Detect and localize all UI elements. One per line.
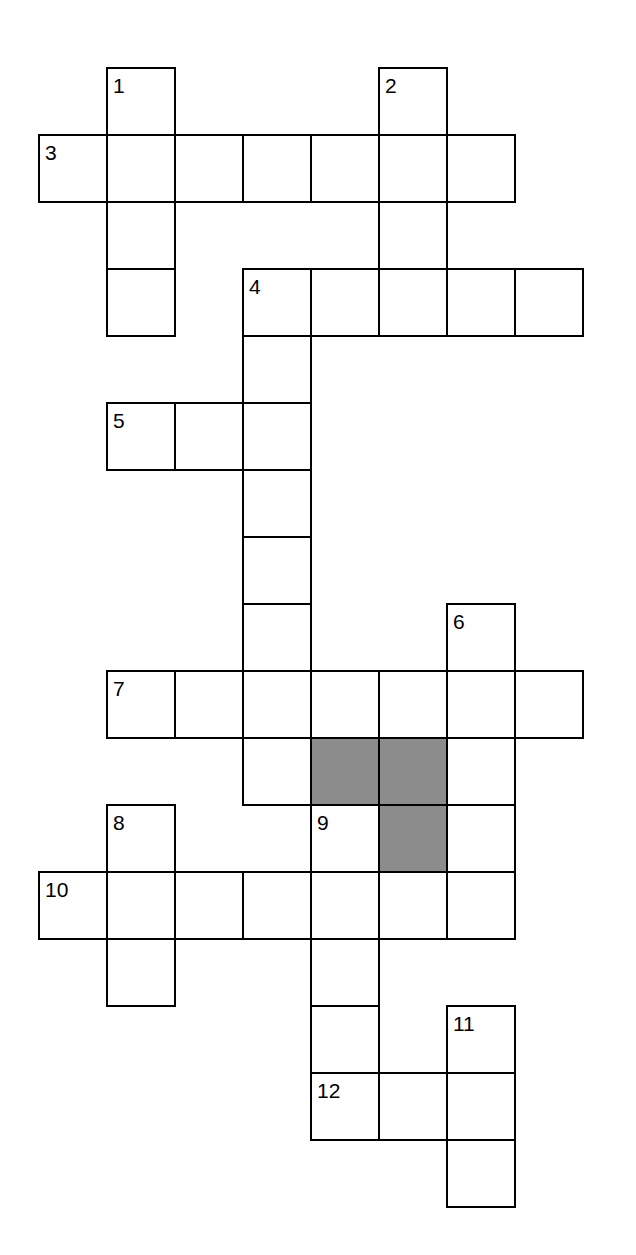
crossword-cell[interactable] (174, 871, 244, 940)
crossword-cell[interactable] (106, 871, 176, 940)
crossword-cell[interactable] (242, 871, 312, 940)
crossword-cell[interactable] (174, 134, 244, 203)
crossword-cell[interactable] (310, 871, 380, 940)
crossword-cell[interactable] (242, 134, 312, 203)
crossword-cell[interactable] (378, 871, 448, 940)
crossword-cell[interactable] (242, 469, 312, 538)
crossword-cell (310, 737, 380, 806)
crossword-cell (378, 804, 448, 873)
clue-number-1: 1 (113, 75, 125, 96)
crossword-cell[interactable] (446, 1139, 516, 1208)
clue-number-11: 11 (453, 1013, 475, 1034)
clue-number-7: 7 (113, 678, 125, 699)
crossword-cell (378, 737, 448, 806)
crossword-cell[interactable] (310, 268, 380, 337)
crossword-cell[interactable] (446, 871, 516, 940)
crossword-cell[interactable] (378, 201, 448, 270)
clue-number-9: 9 (317, 812, 329, 833)
crossword-cell[interactable] (242, 670, 312, 739)
crossword-cell[interactable] (242, 335, 312, 404)
crossword-page: 123456789101112 (0, 0, 636, 1255)
clue-number-4: 4 (249, 276, 261, 297)
clue-number-5: 5 (113, 410, 125, 431)
crossword-cell[interactable] (514, 670, 584, 739)
clue-number-10: 10 (45, 879, 68, 900)
crossword-cell[interactable] (446, 268, 516, 337)
crossword-cell[interactable] (106, 268, 176, 337)
crossword-cell[interactable] (514, 268, 584, 337)
crossword-cell[interactable] (310, 134, 380, 203)
crossword-cell[interactable] (242, 536, 312, 605)
clue-number-8: 8 (113, 812, 125, 833)
crossword-cell[interactable] (106, 938, 176, 1007)
crossword-cell[interactable] (106, 134, 176, 203)
crossword-cell[interactable] (242, 737, 312, 806)
crossword-cell[interactable] (446, 670, 516, 739)
crossword-grid[interactable]: 123456789101112 (0, 0, 636, 1255)
crossword-cell[interactable] (446, 1072, 516, 1141)
crossword-cell[interactable] (174, 670, 244, 739)
crossword-cell[interactable] (174, 402, 244, 471)
crossword-cell[interactable] (378, 268, 448, 337)
crossword-cell[interactable] (242, 603, 312, 672)
crossword-cell[interactable] (310, 1005, 380, 1074)
clue-number-2: 2 (385, 75, 397, 96)
crossword-cell[interactable] (446, 804, 516, 873)
crossword-cell[interactable] (242, 402, 312, 471)
crossword-cell[interactable] (378, 134, 448, 203)
crossword-cell[interactable] (446, 134, 516, 203)
crossword-cell[interactable] (106, 201, 176, 270)
crossword-cell[interactable] (378, 1072, 448, 1141)
crossword-cell[interactable] (378, 670, 448, 739)
crossword-cell[interactable] (310, 938, 380, 1007)
clue-number-12: 12 (317, 1080, 340, 1101)
clue-number-3: 3 (45, 142, 57, 163)
clue-number-6: 6 (453, 611, 465, 632)
crossword-cell[interactable] (446, 737, 516, 806)
crossword-cell[interactable] (310, 670, 380, 739)
